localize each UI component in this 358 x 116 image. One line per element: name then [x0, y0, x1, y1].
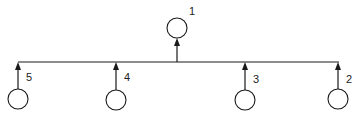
node-1-group: 1: [167, 5, 195, 62]
node-4-label: 4: [124, 71, 130, 83]
node-5-circle: [8, 89, 28, 109]
node-2-label: 2: [346, 73, 352, 85]
node-5-label: 5: [26, 71, 32, 83]
node-1-label: 1: [189, 5, 195, 17]
node-2-circle: [328, 89, 348, 109]
node-3-circle: [235, 90, 255, 110]
node-4-circle: [106, 90, 126, 110]
arrow-up-icon: [242, 62, 248, 70]
bus-diagram: 1 5 4 3 2: [0, 0, 358, 116]
node-3-group: 3: [235, 62, 259, 110]
node-4-group: 4: [106, 62, 130, 110]
node-5-group: 5: [8, 62, 32, 109]
arrow-up-icon: [113, 62, 119, 70]
arrow-up-icon: [15, 62, 21, 70]
node-1-circle: [167, 18, 187, 38]
node-2-group: 2: [328, 62, 352, 109]
node-3-label: 3: [253, 73, 259, 85]
arrow-up-icon: [174, 38, 180, 46]
arrow-up-icon: [335, 62, 341, 70]
